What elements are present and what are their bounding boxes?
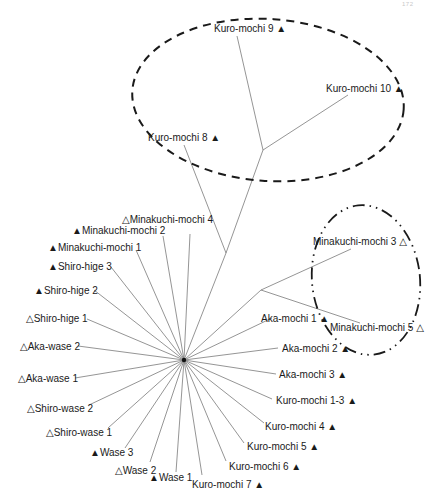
leaf-branch bbox=[263, 95, 348, 150]
leaf-label: ▲Wase 3 bbox=[90, 447, 134, 458]
leaf-label: Kuro-mochi 9 ▲ bbox=[214, 23, 286, 34]
leaf-label: Kuro-mochi 1-3 ▲ bbox=[276, 395, 357, 406]
leaf-branch bbox=[184, 145, 226, 253]
leaf-label: ▲Shiro-hige 2 bbox=[34, 285, 98, 296]
leaf-labels: Kuro-mochi 9 ▲Kuro-mochi 10 ▲Kuro-mochi … bbox=[18, 23, 424, 490]
leaf-label: △Aka-wase 2 bbox=[20, 341, 80, 352]
leaf-branch bbox=[89, 360, 184, 405]
leaf-label: ▲Wase 1 bbox=[149, 472, 193, 483]
leaf-label: Aka-mochi 1 ▲ bbox=[261, 313, 329, 324]
leaf-branch bbox=[184, 360, 244, 443]
leaf-branch bbox=[184, 234, 190, 360]
top-cluster-ellipse bbox=[127, 10, 410, 191]
leaf-branch bbox=[111, 267, 184, 360]
internal-branch bbox=[184, 290, 261, 360]
leaf-label: Aka-mochi 2 ▲ bbox=[282, 343, 350, 354]
leaf-label: △Aka-wase 1 bbox=[18, 373, 78, 384]
leaf-label: △Minakuchi-mochi 4 bbox=[122, 214, 213, 225]
tree-hub-node bbox=[182, 358, 186, 362]
tree-edges bbox=[75, 36, 360, 475]
leaf-branch bbox=[184, 318, 272, 360]
leaf-branch bbox=[184, 360, 226, 461]
leaf-label: Kuro-mochi 6 ▲ bbox=[229, 461, 301, 472]
internal-branch bbox=[226, 150, 263, 253]
leaf-branch bbox=[163, 236, 184, 360]
leaf-label: ▲Minakuchi-mochi 1 bbox=[48, 242, 142, 253]
leaf-label: Kuro-mochi 8 ▲ bbox=[148, 132, 220, 143]
leaf-branch bbox=[184, 360, 272, 399]
leaf-branch bbox=[237, 36, 263, 150]
leaf-branch bbox=[184, 360, 264, 423]
leaf-branch bbox=[184, 360, 276, 374]
leaf-label: Minakuchi-mochi 5 △ bbox=[330, 322, 424, 333]
leaf-branch bbox=[184, 348, 278, 360]
leaf-label: ▲Shiro-hige 3 bbox=[48, 261, 112, 272]
leaf-label: Kuro-mochi 5 ▲ bbox=[247, 441, 319, 452]
cluster-ellipses bbox=[127, 10, 428, 361]
right-cluster-ellipse bbox=[304, 200, 427, 360]
leaf-label: △Shiro-wase 2 bbox=[27, 403, 93, 414]
leaf-label: △Shiro-hige 1 bbox=[26, 313, 88, 324]
leaf-label: Kuro-mochi 4 ▲ bbox=[265, 421, 337, 432]
leaf-branch bbox=[136, 250, 184, 360]
leaf-branch bbox=[176, 360, 184, 472]
phylogenetic-tree: Kuro-mochi 9 ▲Kuro-mochi 10 ▲Kuro-mochi … bbox=[0, 0, 435, 502]
leaf-label: Minakuchi-mochi 3 △ bbox=[313, 236, 407, 247]
leaf-label: ▲Minakuchi-mochi 2 bbox=[72, 225, 166, 236]
leaf-label: Kuro-mochi 10 ▲ bbox=[326, 83, 404, 94]
leaf-label: Aka-mochi 3 ▲ bbox=[279, 369, 347, 380]
internal-branch bbox=[184, 253, 226, 360]
leaf-label: Kuro-mochi 7 ▲ bbox=[192, 479, 264, 490]
leaf-branch bbox=[184, 360, 202, 475]
leaf-label: △Shiro-wase 1 bbox=[46, 427, 112, 438]
leaf-branch bbox=[125, 360, 184, 448]
leaf-branch bbox=[261, 249, 351, 290]
leaf-branch bbox=[75, 360, 184, 378]
